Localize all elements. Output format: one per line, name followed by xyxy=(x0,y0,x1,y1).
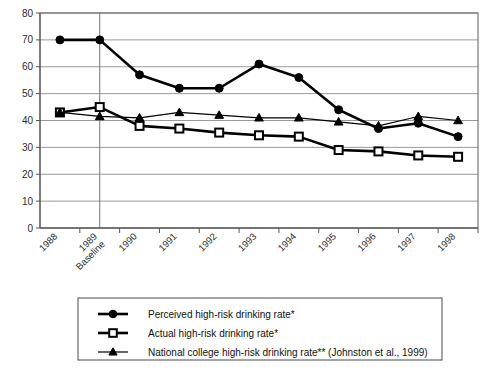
y-tick-label: 10 xyxy=(22,196,34,207)
y-tick-label: 20 xyxy=(22,169,34,180)
marker-filled-circle xyxy=(255,60,263,68)
y-tick-label: 40 xyxy=(22,115,34,126)
marker-open-square xyxy=(414,151,422,159)
marker-filled-circle xyxy=(175,84,183,92)
y-tick-label: 0 xyxy=(27,223,33,234)
legend-item-3[interactable]: National college high-risk drinking rate… xyxy=(98,347,428,358)
y-tick-label: 70 xyxy=(22,34,34,45)
legend-label: Perceived high-risk drinking rate* xyxy=(148,309,295,320)
chart-legend: Perceived high-risk drinking rate*Actual… xyxy=(78,298,442,360)
legend-label: National college high-risk drinking rate… xyxy=(148,347,428,358)
marker-filled-circle xyxy=(295,74,303,82)
marker-open-square xyxy=(295,133,303,141)
marker-open-square xyxy=(175,125,183,133)
marker-filled-circle xyxy=(215,84,223,92)
marker-filled-circle xyxy=(136,71,144,79)
marker-open-square xyxy=(96,103,104,111)
legend-label: Actual high-risk drinking rate* xyxy=(148,328,278,339)
marker-open-square xyxy=(136,122,144,130)
marker-filled-circle xyxy=(335,106,343,114)
y-tick-label: 80 xyxy=(22,8,34,19)
marker-filled-circle xyxy=(109,310,117,318)
marker-filled-circle xyxy=(56,36,64,44)
y-tick-label: 60 xyxy=(22,61,34,72)
marker-filled-circle xyxy=(96,36,104,44)
marker-filled-circle xyxy=(454,133,462,141)
y-tick-label: 30 xyxy=(22,142,34,153)
y-tick-label: 50 xyxy=(22,88,34,99)
marker-open-square xyxy=(255,131,263,139)
marker-open-square xyxy=(109,329,117,337)
marker-open-square xyxy=(335,146,343,154)
marker-filled-circle xyxy=(414,119,422,127)
marker-open-square xyxy=(454,153,462,161)
line-chart-figure: 01020304050607080 19881989Baseline199019… xyxy=(0,0,491,371)
marker-open-square xyxy=(374,147,382,155)
marker-open-square xyxy=(215,129,223,137)
